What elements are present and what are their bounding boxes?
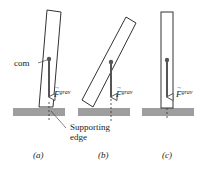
supporting-edge-label-line2: edge [70, 132, 87, 142]
panel-c: Fgrav → (c) [142, 12, 194, 160]
force-vector-arrow-a: → [54, 84, 60, 90]
force-label-a: Fgrav [53, 89, 71, 99]
supporting-edge-label-line1: Supporting [70, 122, 111, 132]
caption-b: (b) [98, 150, 109, 160]
caption-c: (c) [162, 150, 172, 160]
force-label-b: Fgrav [115, 89, 133, 99]
ground-b [78, 108, 130, 116]
force-label-c: Fgrav [175, 89, 193, 99]
toppling-block-diagram: com Fgrav → Supporting edge (a) Fgrav → … [0, 0, 209, 171]
com-label: com [14, 58, 30, 68]
force-vector-arrow-b: → [116, 84, 122, 90]
ground-c [142, 108, 194, 116]
ground-a [13, 108, 65, 116]
caption-a: (a) [33, 150, 44, 160]
force-vector-arrow-c: → [176, 84, 182, 90]
